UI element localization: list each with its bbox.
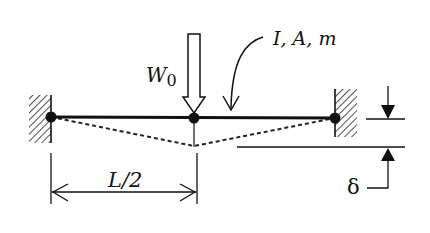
right-node (330, 113, 341, 124)
right-fixed-support (335, 89, 357, 137)
load-label: W0 (146, 63, 177, 90)
beam-diagram: W0 I, A, m L/2 δ (0, 0, 430, 233)
properties-label: I, A, m (272, 27, 336, 49)
left-node (46, 112, 57, 123)
half-span-label: L/2 (107, 168, 142, 192)
load-arrow-icon (183, 34, 205, 113)
deflection-dimension (237, 86, 405, 188)
pointer-arrow-icon (223, 37, 263, 110)
deflection-label: δ (347, 175, 360, 199)
